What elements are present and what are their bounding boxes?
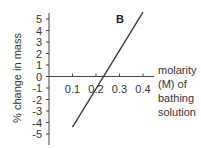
chart: 543210-1-2-3-4-5 0.10.20.30.4 B % change… — [0, 0, 201, 148]
y-axis-label: % change in mass — [11, 33, 23, 123]
y-tick-label: -4 — [32, 117, 42, 129]
x-tick-label: 0.1 — [65, 83, 80, 95]
svg-text:(M) of: (M) of — [158, 78, 188, 90]
x-tick-label: 0.3 — [112, 83, 127, 95]
y-tick-label: -3 — [32, 105, 42, 117]
y-tick-label: 3 — [36, 36, 42, 48]
svg-text:solution: solution — [158, 106, 196, 118]
svg-text:bathing: bathing — [158, 92, 194, 104]
y-tick-label: 2 — [36, 48, 42, 60]
y-tick-label: -2 — [32, 94, 42, 106]
y-tick-label: 1 — [36, 59, 42, 71]
data-line — [73, 12, 144, 127]
y-tick-label: -5 — [32, 128, 42, 140]
y-tick-label: 5 — [36, 13, 42, 25]
y-axis-ticks: 543210-1-2-3-4-5 — [32, 13, 49, 140]
y-tick-label: -1 — [32, 82, 42, 94]
y-tick-label: 4 — [36, 25, 42, 37]
y-tick-label: 0 — [36, 71, 42, 83]
svg-text:molarity: molarity — [158, 64, 197, 76]
x-axis-label: molarity (M) of bathing solution — [158, 64, 197, 118]
x-tick-label: 0.4 — [135, 83, 150, 95]
panel-label: B — [116, 13, 124, 25]
